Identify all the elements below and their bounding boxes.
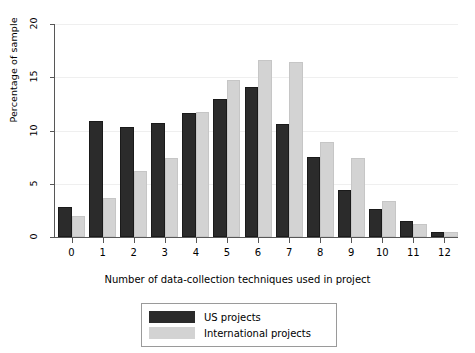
x-tick-label: 8	[305, 247, 335, 258]
x-tick-mark	[72, 238, 73, 243]
chart-legend: US projects International projects	[141, 303, 337, 347]
bar-group	[151, 24, 178, 237]
y-tick-label: 20	[28, 11, 39, 37]
x-tick-label: 11	[398, 247, 428, 258]
bar-group	[213, 24, 240, 237]
x-tick-label: 10	[367, 247, 397, 258]
x-tick-label: 9	[336, 247, 366, 258]
x-tick-mark	[227, 238, 228, 243]
legend-item-international: International projects	[149, 325, 329, 341]
x-tick-mark	[444, 238, 445, 243]
bar-group	[182, 24, 209, 237]
x-tick-label: 12	[429, 247, 459, 258]
x-axis-title: Number of data-collection techniques use…	[0, 274, 475, 285]
bar-us-8	[307, 157, 321, 237]
bar-international-12	[444, 232, 458, 237]
bar-chart-figure: Percentage of sample 05101520 0123456789…	[0, 0, 475, 353]
legend-label-international: International projects	[204, 328, 311, 339]
bar-us-5	[213, 99, 227, 237]
bar-international-0	[72, 216, 86, 237]
bar-international-6	[258, 60, 272, 237]
legend-swatch-us-icon	[149, 311, 195, 323]
x-tick-label: 6	[243, 247, 273, 258]
bar-international-9	[351, 158, 365, 237]
x-tick-label: 0	[57, 247, 87, 258]
y-axis-line	[54, 24, 55, 238]
bar-international-1	[103, 198, 117, 237]
bar-international-10	[382, 201, 396, 237]
x-tick-label: 4	[181, 247, 211, 258]
bar-us-6	[245, 87, 259, 237]
x-tick-mark	[351, 238, 352, 243]
y-tick-label: 0	[28, 224, 39, 250]
x-tick-mark	[413, 238, 414, 243]
bar-us-12	[431, 232, 445, 237]
legend-item-us: US projects	[149, 309, 329, 325]
bar-group	[369, 24, 396, 237]
y-tick-label: 10	[28, 117, 39, 143]
bar-international-7	[289, 62, 303, 237]
x-tick-mark	[134, 238, 135, 243]
x-tick-mark	[258, 238, 259, 243]
bar-group	[58, 24, 85, 237]
bar-group	[307, 24, 334, 237]
bar-group	[431, 24, 458, 237]
bar-group	[89, 24, 116, 237]
bar-group	[338, 24, 365, 237]
x-tick-mark	[196, 238, 197, 243]
bar-us-3	[151, 123, 165, 237]
x-tick-mark	[165, 238, 166, 243]
bar-group	[120, 24, 147, 237]
x-tick-label: 5	[212, 247, 242, 258]
bar-international-3	[165, 158, 179, 237]
x-tick-mark	[103, 238, 104, 243]
x-tick-mark	[320, 238, 321, 243]
bar-group	[400, 24, 427, 237]
x-tick-label: 1	[88, 247, 118, 258]
legend-label-us: US projects	[204, 312, 261, 323]
y-tick-label: 15	[28, 64, 39, 90]
bar-group	[276, 24, 303, 237]
bar-us-7	[276, 124, 290, 237]
bar-group	[245, 24, 272, 237]
bar-international-4	[196, 112, 210, 237]
x-tick-label: 3	[150, 247, 180, 258]
x-tick-label: 7	[274, 247, 304, 258]
bar-international-11	[413, 224, 427, 237]
y-axis-title: Percentage of sample	[8, 10, 19, 130]
y-tick-label: 5	[28, 170, 39, 196]
bar-us-2	[120, 127, 134, 237]
bar-us-11	[400, 221, 414, 237]
bar-us-4	[182, 113, 196, 237]
legend-swatch-international-icon	[149, 327, 195, 339]
bar-international-8	[320, 142, 334, 237]
bar-international-5	[227, 80, 241, 237]
x-tick-mark	[289, 238, 290, 243]
bar-us-0	[58, 207, 72, 237]
bar-us-1	[89, 121, 103, 237]
x-tick-label: 2	[119, 247, 149, 258]
bar-us-10	[369, 209, 383, 237]
bar-us-9	[338, 190, 352, 237]
plot-area: 05101520 0123456789101112	[54, 24, 458, 238]
bar-international-2	[134, 171, 148, 237]
x-axis-line	[54, 237, 458, 238]
x-tick-mark	[382, 238, 383, 243]
